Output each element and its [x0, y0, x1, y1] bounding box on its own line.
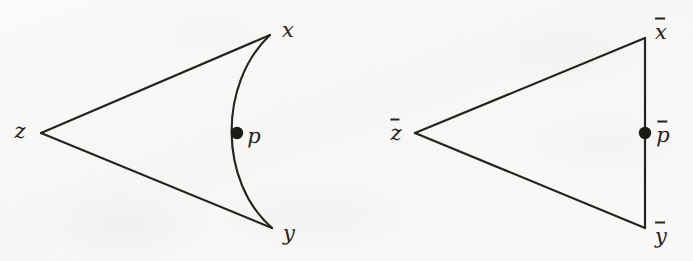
label-p: p	[247, 126, 260, 147]
left-panel-group	[41, 35, 272, 228]
overbar-y	[656, 222, 665, 223]
label-z-bar: z	[390, 121, 401, 144]
diagram-svg	[0, 0, 693, 261]
overbar-x	[656, 18, 665, 19]
label-z: z	[14, 121, 25, 142]
overbar-z	[391, 119, 400, 120]
label-x-bar-text: x	[655, 20, 667, 44]
point-pbar-dot	[639, 127, 651, 139]
label-y: y	[283, 223, 295, 244]
label-p-bar: p	[656, 123, 669, 146]
left-edge-z-to-y	[41, 133, 272, 228]
label-x: x	[282, 20, 294, 41]
right-panel-group	[415, 38, 651, 228]
label-z-bar-text: z	[390, 121, 401, 145]
label-y-bar: y	[655, 224, 667, 247]
label-p-bar-text: p	[656, 123, 669, 147]
point-p-dot	[231, 127, 243, 139]
right-edge-zbar-to-ybar	[415, 133, 645, 228]
overbar-p	[657, 121, 668, 122]
label-x-bar: x	[655, 20, 667, 43]
label-y-bar-text: y	[655, 224, 667, 248]
figure-canvas: z x y p z x y p	[0, 0, 693, 261]
right-edge-zbar-to-xbar	[415, 38, 645, 133]
left-edge-z-to-x	[41, 35, 270, 133]
